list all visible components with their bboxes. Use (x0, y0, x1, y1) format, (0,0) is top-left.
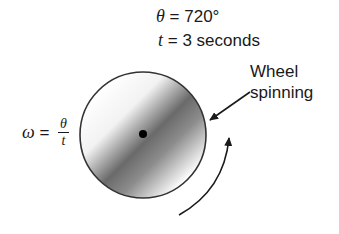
omega-symbol: ω (22, 122, 35, 142)
theta-symbol: θ (156, 6, 165, 26)
theta-value: = 720° (165, 7, 220, 26)
theta-over-t-fraction: θ t (58, 117, 69, 148)
callout-label-line1: Wheel (250, 62, 298, 81)
theta-value-label: θ = 720° (156, 7, 219, 26)
fraction-denominator: t (62, 134, 66, 148)
time-value-label: t = 3 seconds (158, 31, 260, 50)
callout-label-line2: spinning (250, 83, 313, 102)
angular-velocity-diagram: θ = 720° t = 3 seconds ω = θ t Wheel spi… (0, 0, 339, 234)
t-value: = 3 seconds (163, 31, 260, 50)
omega-formula: ω = (22, 123, 49, 142)
equals-sign: = (35, 123, 50, 142)
wheel-axle-dot (139, 130, 147, 138)
callout-arrow-icon (210, 92, 250, 120)
fraction-numerator: θ (60, 117, 67, 131)
